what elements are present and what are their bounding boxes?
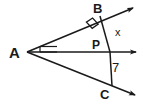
measure-label-x: x bbox=[115, 26, 121, 38]
measure-label-seven: 7 bbox=[112, 60, 119, 75]
vertex-label-a: A bbox=[9, 44, 20, 61]
segment-bp bbox=[100, 16, 110, 52]
vertex-label-b: B bbox=[93, 1, 102, 16]
geometry-diagram: A B C P x 7 bbox=[0, 0, 143, 105]
geometry-canvas: A B C P x 7 bbox=[0, 0, 143, 105]
point-label-p: P bbox=[92, 38, 100, 52]
vertex-label-c: C bbox=[100, 87, 110, 102]
